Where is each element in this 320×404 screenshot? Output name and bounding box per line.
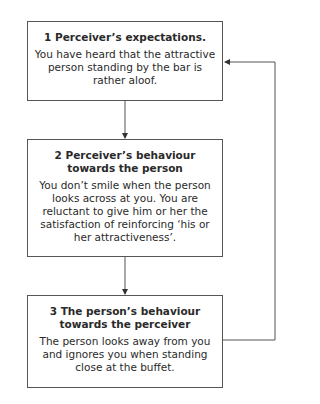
box-body: The person looks away from you and ignor… [28, 335, 222, 374]
box-body: You don’t smile when the person looks ac… [28, 179, 222, 244]
box-title: 3 The person’s behaviour towards the per… [28, 305, 222, 331]
box-person-behaviour: 3 The person’s behaviour towards the per… [27, 295, 223, 388]
box-body: You have heard that the attractive perso… [28, 48, 222, 87]
box-perceiver-behaviour: 2 Perceiver’s behaviour towards the pers… [27, 139, 223, 257]
feedback-arrow-3-to-1 [223, 62, 275, 340]
box-perceiver-expectations: 1 Perceiver’s expectations. You have hea… [27, 21, 223, 101]
box-title: 1 Perceiver’s expectations. [28, 31, 222, 44]
box-title: 2 Perceiver’s behaviour towards the pers… [28, 149, 222, 175]
